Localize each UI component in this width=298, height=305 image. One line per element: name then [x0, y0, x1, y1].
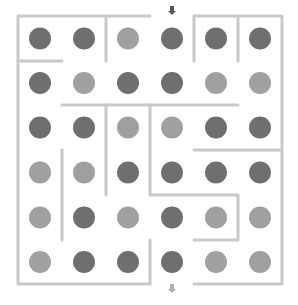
maze-dot-dark[interactable]	[117, 162, 139, 184]
maze-dot-light[interactable]	[29, 251, 51, 273]
maze-dot-dark[interactable]	[73, 207, 95, 229]
maze-wall	[150, 150, 238, 240]
maze-dot-light[interactable]	[29, 207, 51, 229]
maze-dot-light[interactable]	[205, 207, 227, 229]
exit-down-arrow-icon	[168, 284, 176, 293]
maze-dot-light[interactable]	[205, 251, 227, 273]
maze-dot-dark[interactable]	[205, 117, 227, 139]
maze-dot-dark[interactable]	[29, 72, 51, 94]
maze-walls	[18, 16, 282, 284]
entrance-down-arrow-icon	[168, 6, 176, 15]
maze-dot-light[interactable]	[249, 251, 271, 273]
maze-dot-light[interactable]	[117, 207, 139, 229]
maze-dot-light[interactable]	[249, 207, 271, 229]
maze-dot-light[interactable]	[73, 162, 95, 184]
maze-dot-light[interactable]	[161, 117, 183, 139]
maze-dot-dark[interactable]	[73, 251, 95, 273]
maze-dot-dark[interactable]	[249, 28, 271, 50]
maze-dot-dark[interactable]	[161, 251, 183, 273]
maze-dot-light[interactable]	[117, 117, 139, 139]
maze-dot-light[interactable]	[73, 72, 95, 94]
maze-dot-dark[interactable]	[205, 162, 227, 184]
maze-dot-dark[interactable]	[161, 207, 183, 229]
maze-dot-dark[interactable]	[29, 28, 51, 50]
maze-dot-dark[interactable]	[205, 28, 227, 50]
maze-dot-dark[interactable]	[161, 72, 183, 94]
maze-wall	[18, 16, 150, 284]
maze-dot-dark[interactable]	[117, 72, 139, 94]
maze-dot-dark[interactable]	[249, 117, 271, 139]
maze-dot-dark[interactable]	[73, 28, 95, 50]
maze-dot-dark[interactable]	[73, 117, 95, 139]
maze-dot-dark[interactable]	[117, 251, 139, 273]
maze-dot-dark[interactable]	[161, 28, 183, 50]
maze-dot-dark[interactable]	[29, 117, 51, 139]
maze-dot-light[interactable]	[29, 162, 51, 184]
maze-dot-light[interactable]	[205, 72, 227, 94]
maze-dot-light[interactable]	[117, 28, 139, 50]
maze-board	[0, 0, 298, 305]
maze-dot-light[interactable]	[249, 72, 271, 94]
maze-dot-dark[interactable]	[249, 162, 271, 184]
maze-dot-dark[interactable]	[161, 162, 183, 184]
